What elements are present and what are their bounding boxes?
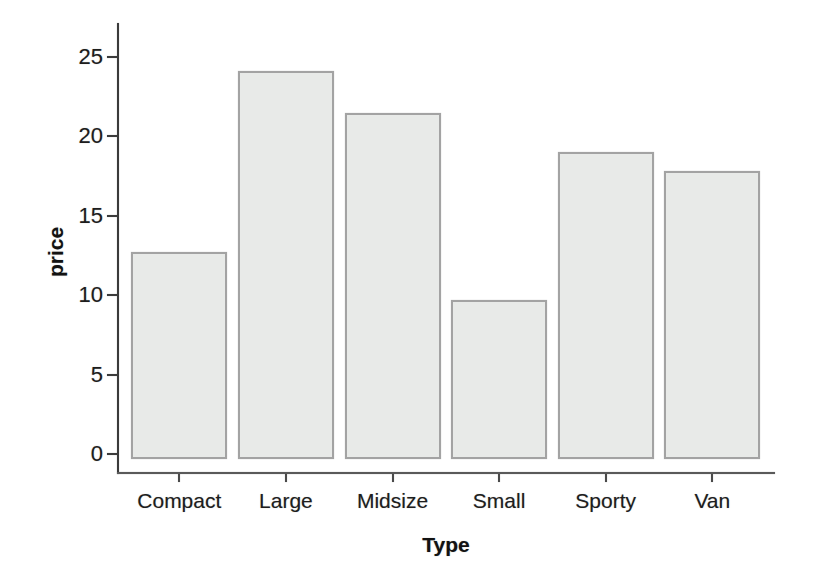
y-axis-title: price (44, 227, 68, 277)
y-tick-label: 15 (33, 205, 103, 227)
x-tick-mark (178, 474, 180, 482)
bar-midsize (345, 113, 441, 459)
scanned-page: 0510152025 CompactLargeMidsizeSmallSport… (0, 0, 819, 581)
x-tick-mark (498, 474, 500, 482)
x-axis-line (117, 472, 775, 474)
y-tick-mark (107, 56, 118, 58)
y-tick-mark (107, 135, 118, 137)
x-tick-mark (392, 474, 394, 482)
y-tick-mark (107, 215, 118, 217)
bar-compact (131, 252, 227, 459)
y-tick-label: 10 (33, 284, 103, 306)
bar-small (451, 300, 547, 459)
y-tick-mark (107, 374, 118, 376)
y-tick-label: 20 (33, 125, 103, 147)
y-tick-label: 5 (33, 364, 103, 386)
bar-sporty (558, 152, 654, 459)
y-tick-mark (107, 453, 118, 455)
y-axis-line (117, 23, 119, 474)
x-tick-mark (711, 474, 713, 482)
bar-chart: 0510152025 CompactLargeMidsizeSmallSport… (0, 0, 819, 581)
x-tick-label-van: Van (647, 489, 777, 513)
y-tick-label: 25 (33, 46, 103, 68)
y-tick-mark (107, 294, 118, 296)
x-tick-mark (605, 474, 607, 482)
y-tick-label: 0 (33, 443, 103, 465)
x-axis-title: Type (422, 533, 469, 557)
bar-large (238, 71, 334, 459)
bar-van (664, 171, 760, 459)
x-tick-mark (285, 474, 287, 482)
